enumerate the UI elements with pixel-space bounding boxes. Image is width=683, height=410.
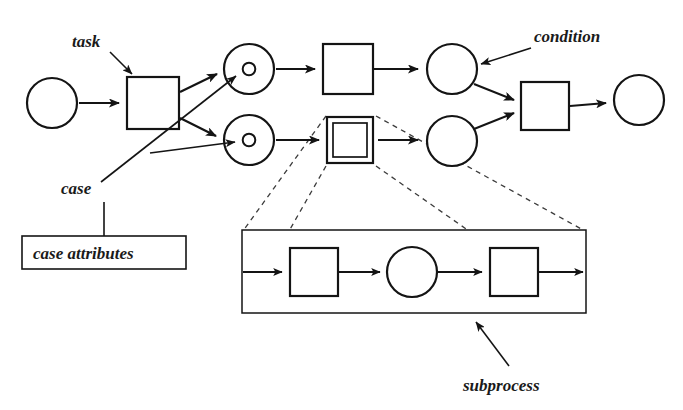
edge-task-to-bottom-condition [180, 118, 216, 136]
callout-subprocess-arrow [476, 322, 509, 366]
node-condition-bottom-second [427, 116, 477, 166]
edge-task-to-top-condition [180, 74, 217, 92]
callout-subprocess: subprocess [462, 322, 540, 395]
sub-node-task-1 [290, 248, 338, 296]
case-token [243, 134, 256, 147]
callout-task-label: task [72, 32, 101, 51]
subprocess-container [242, 230, 586, 313]
callout-condition: condition [481, 27, 600, 64]
node-condition-bottom-with-token [224, 115, 274, 165]
node-start-condition [27, 78, 77, 128]
node-task-join [521, 82, 569, 130]
node-condition-top-second [427, 44, 477, 94]
edge-condition-top-to-join [474, 84, 514, 100]
diagram-canvas: task condition case case attributes subp… [0, 0, 683, 410]
callout-task: task [72, 32, 132, 74]
callout-subprocess-label: subprocess [462, 376, 540, 395]
node-condition-top-with-token [224, 44, 274, 94]
callout-case-label: case [61, 179, 92, 198]
zoom-link-topright [376, 116, 585, 231]
callout-condition-arrow [481, 48, 531, 64]
case-token [243, 63, 256, 76]
sub-node-task-2 [490, 248, 538, 296]
callout-condition-label: condition [534, 27, 600, 46]
edge-condition-bottom-to-join [474, 113, 514, 129]
case-attributes-label: case attributes [33, 244, 134, 263]
callout-case-arrow-bottom [150, 142, 235, 153]
sub-node-condition [387, 247, 437, 297]
node-task-first [127, 77, 179, 129]
node-end-condition [614, 75, 664, 125]
edge-join-to-end [570, 103, 606, 106]
node-subprocess-task [327, 117, 373, 163]
case-attributes-box-group: case attributes [22, 236, 186, 269]
inner-square [333, 123, 367, 157]
workflow-diagram: task condition case case attributes subp… [0, 0, 683, 410]
node-task-top [323, 44, 373, 94]
callout-task-arrow [110, 52, 132, 74]
